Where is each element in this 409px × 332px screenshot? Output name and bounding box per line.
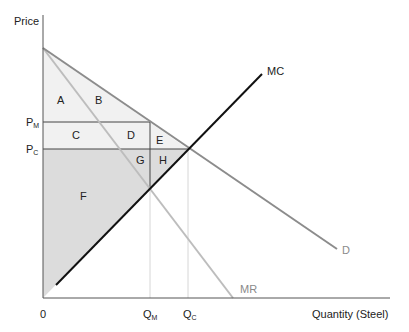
region-f: F bbox=[80, 191, 87, 202]
region-e: E bbox=[156, 135, 163, 146]
y-axis-label: Price bbox=[14, 16, 39, 27]
region-b: B bbox=[95, 95, 102, 106]
mr-label: MR bbox=[240, 284, 257, 295]
region-g: G bbox=[136, 155, 145, 166]
region-c: C bbox=[72, 130, 80, 141]
monopoly-diagram: Price Quantity (Steel) 0 PM PC QM QC MC … bbox=[0, 0, 409, 332]
qc-sub: C bbox=[192, 314, 197, 321]
region-d: D bbox=[127, 130, 135, 141]
demand-label: D bbox=[342, 245, 350, 256]
pm-sub: M bbox=[33, 122, 39, 129]
qc-main: Q bbox=[183, 308, 192, 320]
qm-label: QM bbox=[143, 309, 157, 321]
pm-label: PM bbox=[26, 117, 39, 129]
qm-main: Q bbox=[143, 308, 152, 320]
qm-sub: M bbox=[152, 314, 158, 321]
diagram-canvas bbox=[0, 0, 409, 332]
origin-label: 0 bbox=[40, 309, 46, 320]
region-a: A bbox=[57, 95, 64, 106]
pc-sub: C bbox=[33, 149, 38, 156]
mc-label: MC bbox=[267, 66, 284, 77]
qc-label: QC bbox=[183, 309, 197, 321]
region-h: H bbox=[159, 155, 167, 166]
x-axis-label: Quantity (Steel) bbox=[312, 309, 388, 320]
pc-label: PC bbox=[26, 144, 38, 156]
